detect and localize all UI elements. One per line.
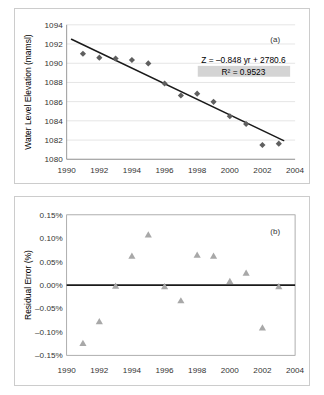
data-point [145,231,152,237]
y-tick-labels-b: 0.15% 0.10% 0.05% 0.00% –0.05% –0.10% –0… [35,211,63,360]
residual-error-panel: 0.15% 0.10% 0.05% 0.00% –0.05% –0.10% –0… [14,196,310,386]
data-point [129,57,135,63]
data-point [259,324,266,330]
x-tick: 1994 [123,166,142,175]
x-tick: 1992 [90,366,109,375]
y-tick: 1082 [45,136,64,145]
y-tick-labels-a: 1094 1092 1090 1088 1086 1084 1082 1080 [45,21,64,164]
y-tick: 0.10% [40,234,63,243]
panel-tag-a: (a) [270,35,280,44]
x-tick: 1996 [156,166,175,175]
data-point [275,283,282,289]
data-point [194,251,201,257]
data-point [161,283,168,289]
y-tick: 1088 [45,78,64,87]
data-point [276,141,282,147]
x-tick: 2002 [253,366,272,375]
trendline-equation: Z = –0.848 yr + 2780.6 [201,55,286,65]
y-tick: –0.05% [35,304,63,313]
x-tick: 2002 [253,166,272,175]
data-point [178,92,184,98]
r-squared-label: R² = 0.9523 [222,67,266,77]
data-point [259,142,265,148]
x-tick-labels-a: 1990 1992 1994 1996 1998 2000 2002 2004 [58,166,305,175]
water-level-elevation-panel: 1094 1092 1090 1088 1086 1084 1082 1080 … [14,8,310,184]
data-point [96,318,103,324]
y-axis-title-b: Residual Error (%) [23,250,33,320]
x-tick: 1998 [188,366,207,375]
panel-tag-b: (b) [270,227,280,236]
x-tick-labels-b: 1990 1992 1994 1996 1998 2000 2002 2004 [58,366,305,375]
y-axis-title-a: Water Level Elevation (mamsl) [23,34,33,150]
data-point [80,51,86,57]
data-point [177,297,184,303]
x-tick: 1992 [90,166,109,175]
y-tick: 1086 [45,98,64,107]
y-tick: 1094 [45,21,64,30]
data-point [210,252,217,258]
y-tick: 1090 [45,59,64,68]
x-tick: 2004 [286,366,305,375]
x-tick: 1994 [123,366,142,375]
y-tick: 1084 [45,117,64,126]
y-tick: 0.05% [40,258,63,267]
data-point [96,55,102,61]
data-point [162,80,168,86]
y-tick: 0.15% [40,211,63,220]
residual-error-chart: 0.15% 0.10% 0.05% 0.00% –0.05% –0.10% –0… [15,197,309,385]
x-tick: 2004 [286,166,305,175]
y-tick: –0.10% [35,328,63,337]
x-tick: 1998 [188,166,207,175]
data-points-b [79,231,282,346]
y-tick: 1092 [45,40,64,49]
x-tick: 1990 [58,366,77,375]
data-point [194,91,200,97]
x-tick: 1990 [58,166,77,175]
y-tick: 1080 [45,155,64,164]
x-tick: 2000 [221,166,240,175]
x-tick: 2000 [221,366,240,375]
data-point [226,278,233,284]
data-point [145,60,151,66]
water-level-elevation-chart: 1094 1092 1090 1088 1086 1084 1082 1080 … [15,9,309,183]
y-tick: –0.15% [35,351,63,360]
y-tick: 0.00% [40,281,63,290]
data-point [128,252,135,258]
data-point [79,340,86,346]
data-point [210,99,216,105]
x-tick: 1996 [156,366,175,375]
data-point [243,269,250,275]
